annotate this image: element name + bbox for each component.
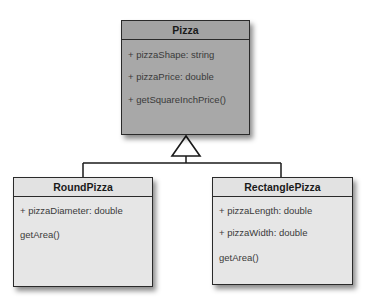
class-pizza-member: + pizzaShape: string — [128, 49, 214, 61]
class-rectanglepizza-member: + pizzaLength: double — [219, 205, 312, 217]
class-rectanglepizza-member: + pizzaWidth: double — [219, 227, 307, 239]
class-rectanglepizza-name: RectanglePizza — [213, 178, 352, 197]
class-pizza-member: + pizzaPrice: double — [128, 71, 214, 83]
class-roundpizza-name: RoundPizza — [14, 178, 152, 197]
class-roundpizza-member: + pizzaDiameter: double — [20, 205, 123, 217]
class-pizza: Pizza + pizzaShape: string + pizzaPrice:… — [121, 20, 250, 135]
class-pizza-member: + getSquareInchPrice() — [128, 94, 226, 106]
class-pizza-name: Pizza — [122, 21, 249, 40]
class-rectanglepizza-member: getArea() — [219, 252, 259, 264]
class-roundpizza-member: getArea() — [20, 229, 60, 241]
class-roundpizza: RoundPizza + pizzaDiameter: double getAr… — [13, 177, 153, 287]
class-rectanglepizza: RectanglePizza + pizzaLength: double + p… — [212, 177, 353, 285]
inheritance-arrow-icon — [172, 136, 200, 156]
